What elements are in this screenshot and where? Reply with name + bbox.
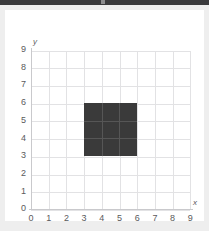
y-tick-label: 9 bbox=[13, 44, 26, 55]
shape-inner-gridline-horizontal bbox=[84, 121, 137, 122]
filled-square-shape bbox=[84, 103, 137, 156]
titlebar-notch-icon bbox=[101, 0, 105, 4]
y-tick-label: 6 bbox=[13, 97, 26, 108]
shape-inner-gridline-horizontal bbox=[84, 138, 137, 139]
y-axis-line bbox=[31, 48, 32, 210]
gridline-vertical bbox=[137, 51, 138, 210]
shape-inner-gridline-vertical bbox=[102, 103, 103, 156]
x-tick-label: 5 bbox=[113, 213, 127, 224]
x-axis-line bbox=[29, 209, 193, 210]
x-tick-label: 3 bbox=[77, 213, 91, 224]
x-tick-label: 7 bbox=[148, 213, 162, 224]
chart-card: y x 01234567890123456789 bbox=[5, 10, 204, 221]
gridline-vertical bbox=[173, 51, 174, 210]
coordinate-plane-chart: y x 01234567890123456789 bbox=[5, 10, 204, 221]
y-tick-label: 4 bbox=[13, 133, 26, 144]
gridline-horizontal bbox=[31, 68, 190, 69]
y-tick-label: 1 bbox=[13, 186, 26, 197]
y-axis-label: y bbox=[33, 37, 37, 46]
screenshot-root: y x 01234567890123456789 bbox=[0, 0, 209, 231]
y-tick-label: 5 bbox=[13, 115, 26, 126]
gridline-horizontal bbox=[31, 175, 190, 176]
x-tick-label: 2 bbox=[59, 213, 73, 224]
y-tick-label: 8 bbox=[13, 62, 26, 73]
gridline-horizontal bbox=[31, 51, 190, 52]
x-tick-label: 0 bbox=[24, 213, 38, 224]
x-tick-label: 1 bbox=[42, 213, 56, 224]
gridline-horizontal bbox=[31, 192, 190, 193]
x-tick-label: 8 bbox=[166, 213, 180, 224]
gridline-vertical bbox=[155, 51, 156, 210]
gridline-horizontal bbox=[31, 157, 190, 158]
x-tick-label: 4 bbox=[95, 213, 109, 224]
x-axis-label: x bbox=[193, 198, 197, 207]
y-tick-label: 7 bbox=[13, 79, 26, 90]
y-tick-label: 0 bbox=[13, 203, 26, 214]
x-tick-label: 6 bbox=[130, 213, 144, 224]
gridline-horizontal bbox=[31, 86, 190, 87]
y-tick-label: 2 bbox=[13, 168, 26, 179]
y-tick-label: 3 bbox=[13, 150, 26, 161]
gridline-vertical bbox=[66, 51, 67, 210]
gridline-vertical bbox=[190, 51, 191, 210]
x-tick-label: 9 bbox=[183, 213, 197, 224]
shape-inner-gridline-vertical bbox=[119, 103, 120, 156]
gridline-vertical bbox=[49, 51, 50, 210]
